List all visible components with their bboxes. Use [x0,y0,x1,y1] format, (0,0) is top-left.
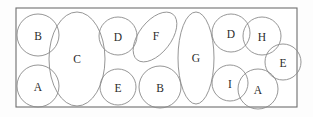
shape-label: B [34,30,42,42]
shape-label: C [73,53,81,65]
packing-figure: BACDEFBGDHEIA [0,0,313,117]
shape-label: D [114,31,122,43]
shape-label: G [192,52,200,64]
shape-label: E [114,82,121,94]
shape-label: A [254,84,263,96]
shape-label: D [227,28,235,40]
shape-label: H [258,31,266,43]
shape-label: F [153,30,159,42]
shape-label: A [34,81,43,93]
shape-label: I [228,78,232,90]
packing-canvas: BACDEFBGDHEIA [0,0,313,117]
shape-label: E [279,57,286,69]
shape-label: B [156,82,164,94]
